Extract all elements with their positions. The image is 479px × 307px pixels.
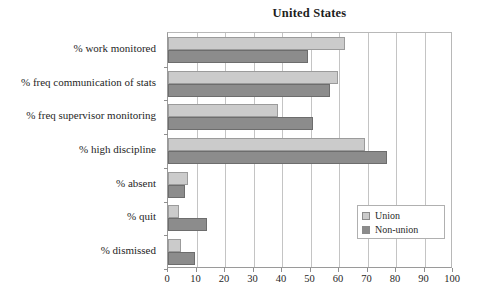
- legend-item-non-union: Non-union: [362, 223, 440, 236]
- bar: [168, 50, 308, 63]
- category-axis-label: % high discipline: [79, 143, 156, 155]
- legend-label-union: Union: [375, 210, 400, 221]
- legend-swatch-union-icon: [362, 212, 370, 220]
- value-axis-label: 80: [390, 273, 401, 284]
- category-axis-label: % work monitored: [74, 42, 156, 54]
- value-axis-tick: [395, 268, 396, 272]
- category-axis-tick: [164, 134, 168, 135]
- value-axis-label: 100: [444, 273, 460, 284]
- value-axis-label: 50: [304, 273, 315, 284]
- value-axis-tick: [424, 268, 425, 272]
- value-axis: 0102030405060708090100: [167, 268, 453, 298]
- category-axis-tick: [164, 235, 168, 236]
- legend-label-non-union: Non-union: [375, 224, 418, 235]
- bar: [168, 138, 365, 151]
- value-axis-tick: [167, 268, 168, 272]
- chart-legend: Union Non-union: [357, 205, 445, 239]
- bar: [168, 151, 387, 164]
- value-axis-label: 20: [219, 273, 230, 284]
- value-axis-label: 30: [247, 273, 258, 284]
- bar: [168, 84, 330, 97]
- value-axis-tick: [281, 268, 282, 272]
- value-axis-tick: [253, 268, 254, 272]
- bar: [168, 172, 188, 185]
- chart-title: United States: [0, 6, 479, 21]
- bar: [168, 218, 207, 231]
- bar: [168, 117, 313, 130]
- category-axis-label: % freq communication of stats: [21, 76, 156, 88]
- category-axis-label: % freq supervisor monitoring: [26, 109, 156, 121]
- legend-item-union: Union: [362, 209, 440, 222]
- value-axis-label: 10: [190, 273, 201, 284]
- value-axis-tick: [196, 268, 197, 272]
- category-axis-tick: [164, 202, 168, 203]
- value-axis-tick: [338, 268, 339, 272]
- value-axis-label: 60: [333, 273, 344, 284]
- category-axis-label: % quit: [127, 210, 156, 222]
- value-axis-label: 40: [276, 273, 287, 284]
- category-axis-tick: [164, 100, 168, 101]
- value-axis-tick: [310, 268, 311, 272]
- value-axis-label: 90: [418, 273, 429, 284]
- value-axis-tick: [452, 268, 453, 272]
- chart-screenshot: United States % work monitored% freq com…: [0, 0, 479, 307]
- bar: [168, 37, 345, 50]
- value-axis-tick: [367, 268, 368, 272]
- bar: [168, 239, 181, 252]
- bar: [168, 185, 185, 198]
- bar: [168, 104, 278, 117]
- value-axis-label: 0: [164, 273, 169, 284]
- category-axis-tick: [164, 168, 168, 169]
- legend-swatch-non-union-icon: [362, 226, 370, 234]
- category-axis-label: % absent: [116, 177, 156, 189]
- category-axis-tick: [164, 67, 168, 68]
- category-axis-labels: % work monitored% freq communication of …: [0, 32, 162, 268]
- category-axis-label: % dismissed: [101, 244, 156, 256]
- bar: [168, 71, 338, 84]
- value-axis-tick: [224, 268, 225, 272]
- bar: [168, 205, 179, 218]
- bar: [168, 252, 195, 265]
- value-axis-label: 70: [361, 273, 372, 284]
